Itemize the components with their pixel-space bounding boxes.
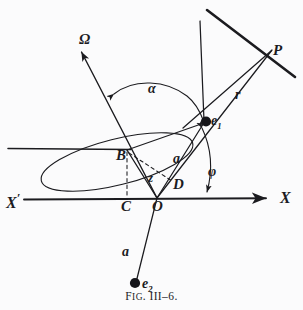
label-semi-axis-a-upper: a	[173, 152, 180, 166]
node-axis-ray	[82, 52, 158, 198]
orbit-diagram	[0, 0, 303, 310]
angle-arc-alpha	[114, 83, 204, 121]
label-node-axis-omega: Ω	[79, 32, 90, 47]
label-radius-r: r	[235, 88, 240, 102]
figure-caption: FIG. III–6.	[0, 290, 303, 302]
label-axis-x-prime-base: X	[6, 194, 17, 211]
projection-line-e1-upper	[200, 21, 204, 121]
label-point-c: C	[121, 199, 131, 214]
caption-smallcaps: IG	[132, 292, 143, 302]
label-axis-x-prime: X′	[6, 192, 20, 211]
label-axis-x-prime-mark: ′	[17, 191, 21, 205]
perpendicular-at-p	[183, 51, 271, 128]
label-semi-axis-a-lower: a	[122, 245, 129, 259]
label-electron-1: e1	[211, 114, 222, 130]
label-point-b: B	[116, 148, 126, 163]
label-point-o: O	[152, 199, 163, 214]
label-point-d: D	[173, 177, 184, 192]
label-angle-phi: φ	[208, 165, 216, 179]
label-height-z: z	[148, 171, 153, 184]
label-electron-1-subscript: 1	[217, 121, 221, 131]
label-angle-alpha: α	[148, 82, 156, 96]
electron-2-marker	[130, 278, 140, 288]
figure-iii-6: Ω α P r e1 B a z D φ C O X′ X a e2 FIG. …	[0, 0, 303, 310]
label-axis-x: X	[280, 190, 291, 206]
label-point-p: P	[273, 43, 282, 58]
reference-horizontal-line	[8, 149, 131, 150]
x-axis-line	[24, 198, 266, 199]
electron-1-marker	[201, 116, 211, 126]
caption-rest: . III–6.	[143, 290, 178, 302]
